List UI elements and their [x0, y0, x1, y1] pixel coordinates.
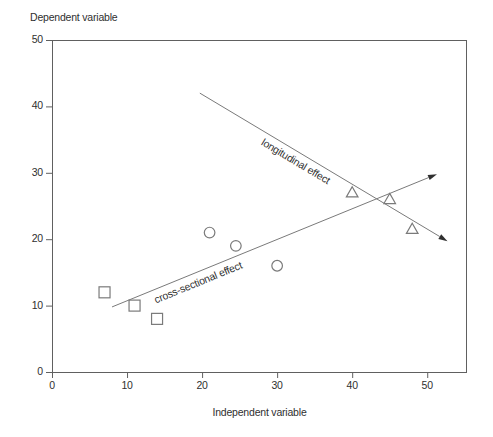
x-axis-title: Independent variable — [52, 406, 467, 418]
arrow-head-longitudinal-effect — [438, 234, 447, 241]
y-tick-label-0: 0 — [0, 365, 43, 377]
x-tick-label-40: 40 — [337, 379, 367, 391]
data-point-circle — [204, 227, 215, 238]
data-point-triangle — [346, 187, 358, 197]
scatter-plot-figure: Dependent variable 010203040500102030405… — [0, 0, 493, 437]
y-tick-label-40: 40 — [0, 99, 43, 111]
x-tick-label-30: 30 — [262, 379, 292, 391]
y-tick-label-20: 20 — [0, 232, 43, 244]
plot-box — [53, 41, 467, 373]
x-tick-label-50: 50 — [412, 379, 442, 391]
data-point-triangle — [406, 223, 418, 233]
trend-line-longitudinal-effect — [200, 93, 440, 236]
data-point-circle — [272, 260, 283, 271]
y-tick-label-50: 50 — [0, 33, 43, 45]
y-tick-label-30: 30 — [0, 166, 43, 178]
x-tick-label-20: 20 — [187, 379, 217, 391]
data-point-square — [129, 300, 140, 311]
data-point-circle — [231, 241, 242, 252]
data-point-square — [99, 287, 110, 298]
data-point-square — [152, 313, 163, 324]
plot-canvas — [0, 0, 493, 437]
arrow-head-cross-sectional-effect — [428, 174, 437, 180]
x-tick-label-10: 10 — [112, 379, 142, 391]
x-tick-label-0: 0 — [37, 379, 67, 391]
y-tick-label-10: 10 — [0, 299, 43, 311]
trend-line-cross-sectional-effect — [112, 178, 429, 307]
